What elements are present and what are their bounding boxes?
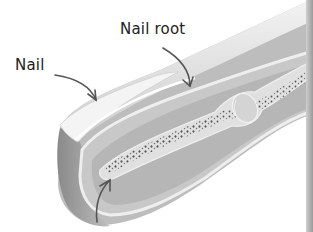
page-edge	[306, 0, 313, 232]
label-nail-root: Nail root	[120, 20, 185, 38]
finger-diagram: Nail Nail root	[0, 0, 313, 232]
label-nail: Nail	[15, 56, 45, 74]
